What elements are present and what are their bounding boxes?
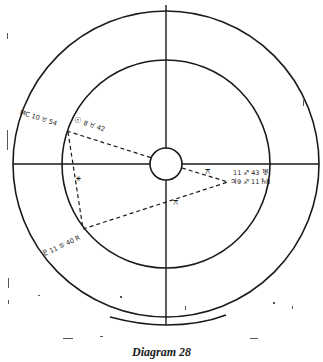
scan-noise: [7, 33, 304, 339]
astrology-chart-wheel: ⚹ ⚻ ⚻ MC 10 ♉ 54 ☉ 8 ♉ 42 11 ♐ 43 ♅ ♃ 9 …: [0, 0, 323, 362]
aspect-line-pluto-jupiter: [83, 182, 228, 229]
midheaven-label: MC 10 ♉ 54: [19, 108, 58, 128]
uranus-icon: ♅: [262, 168, 269, 177]
sextile-symbol: ⚹: [76, 174, 81, 183]
saturn-retrograde-text: R: [266, 178, 271, 186]
midheaven-text: MC 10 ♉ 54: [19, 108, 58, 128]
sun-position-text: 8 ♉ 42: [82, 119, 106, 134]
quincunx-symbol-lower: ⚻: [173, 198, 178, 207]
diagram-caption: Diagram 28: [0, 345, 323, 360]
center-circle: [150, 148, 182, 180]
pluto-position-text: 11 ♋ 40 R: [48, 234, 82, 255]
pluto-label: ♇ 11 ♋ 40 R: [40, 233, 81, 259]
quincunx-symbol-upper: ⚻: [205, 167, 210, 176]
uranus-position-text: 11 ♐ 43: [233, 169, 260, 177]
sun-label: ☉ 8 ♉ 42: [73, 115, 107, 134]
jupiter-position-text: 9 ♐ 11: [237, 178, 259, 186]
aspect-line-sun-center: [67, 131, 152, 158]
sun-icon: ☉: [73, 115, 83, 126]
